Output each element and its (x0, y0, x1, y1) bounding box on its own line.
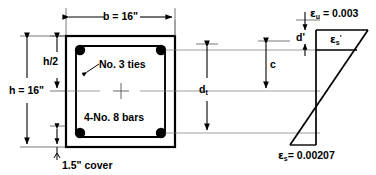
eps-s-value: = 0.00207 (288, 149, 335, 161)
ties-label: No. 3 ties (99, 59, 146, 70)
eps-s-subscript: s (284, 155, 288, 162)
eps-s-prime-label: εs' (330, 34, 342, 45)
figure-canvas: b = 16" h = 16" h/2 1.5" cover No. 3 tie… (0, 0, 376, 175)
strain-diagram (290, 30, 368, 145)
eps-u-symbol: ε (310, 7, 316, 19)
c-label: c (270, 59, 276, 70)
eps-s-prime-mark: ' (340, 33, 342, 42)
rebar-bottom-right (156, 128, 166, 138)
dt-label: dt (199, 84, 208, 95)
eps-s-label: εs= 0.00207 (278, 150, 335, 161)
cover-label: 1.5" cover (62, 160, 113, 171)
eps-s-symbol: ε (278, 149, 284, 161)
half-height-label: h/2 (43, 56, 58, 67)
rebar-bottom-left (75, 128, 85, 138)
width-dimension-label: b = 16" (103, 11, 138, 22)
eps-u-value: = 0.003 (320, 7, 358, 19)
eps-u-subscript: u (316, 13, 320, 20)
rebar-top-right (156, 45, 166, 55)
bars-label: 4-No. 8 bars (84, 112, 144, 123)
dt-subscript: t (205, 89, 207, 96)
height-dimension-label: h = 16" (9, 85, 44, 96)
rebar-top-left (75, 45, 85, 55)
dprime-label: d' (296, 32, 305, 43)
strain-profile-line (290, 30, 368, 145)
eps-s-prime-symbol: ε (330, 33, 336, 45)
eps-u-label: εu = 0.003 (310, 8, 358, 19)
